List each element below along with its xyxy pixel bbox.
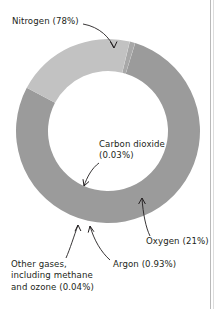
label-oxygen: Oxygen (21%) bbox=[146, 236, 209, 247]
label-nitrogen: Nitrogen (78%) bbox=[12, 16, 79, 27]
chart-figure: Nitrogen (78%) Carbon dioxide (0.03%) Ox… bbox=[0, 0, 221, 309]
donut-slices bbox=[16, 39, 200, 223]
arrow-co2 bbox=[84, 163, 99, 186]
label-argon: Argon (0.93%) bbox=[113, 259, 176, 270]
label-other-gases: Other gases, including methane and ozone… bbox=[11, 259, 94, 293]
donut-slice bbox=[27, 39, 130, 103]
arrow-other bbox=[66, 225, 78, 258]
label-carbon-dioxide: Carbon dioxide (0.03%) bbox=[99, 139, 165, 162]
arrow-other-head bbox=[75, 225, 81, 231]
